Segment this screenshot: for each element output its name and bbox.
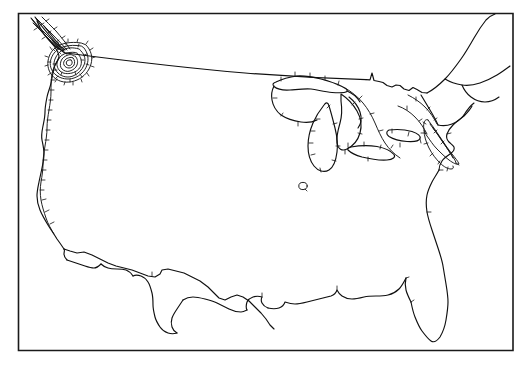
contour-map-figure xyxy=(0,0,531,366)
map-canvas xyxy=(0,0,531,366)
